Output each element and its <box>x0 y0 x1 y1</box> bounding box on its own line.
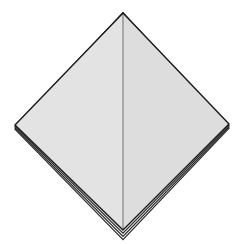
drawing-canvas <box>0 0 248 244</box>
diamond-figure <box>0 0 248 244</box>
right-face-polygon <box>123 13 229 230</box>
left-face-polygon <box>15 13 123 230</box>
